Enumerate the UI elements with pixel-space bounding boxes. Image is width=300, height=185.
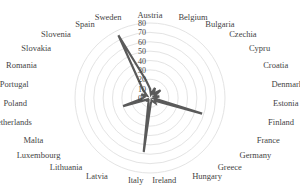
category-label: Bulgaria — [205, 19, 234, 29]
category-label: Finland — [268, 117, 295, 127]
radial-tick-label: 40 — [138, 57, 146, 66]
category-label: France — [257, 135, 280, 145]
category-label: Slovakia — [21, 43, 51, 53]
grid-ring — [113, 61, 188, 136]
radar-chart: 01020304050607080 AustriaBelgiumBulgaria… — [0, 0, 300, 185]
radial-tick-label: 80 — [138, 19, 146, 28]
category-label: Estonia — [273, 98, 299, 108]
category-label: Belgium — [178, 12, 208, 22]
category-label: Hungary — [192, 171, 222, 181]
category-label: Slovenia — [41, 29, 71, 39]
radial-tick-label: 10 — [138, 85, 146, 94]
grid-ring — [84, 32, 215, 163]
category-label: Spain — [75, 19, 95, 29]
category-label: Netherlands — [0, 117, 32, 127]
category-label: Austria — [137, 10, 162, 20]
category-labels: AustriaBelgiumBulgariaCzechiaCypruCroati… — [0, 10, 300, 185]
radial-tick-label: 60 — [138, 38, 146, 47]
category-label: Luxembourg — [17, 150, 62, 160]
category-label: Romania — [6, 60, 37, 70]
grid-ring — [103, 51, 197, 145]
radial-tick-label: 0 — [138, 94, 142, 103]
radial-tick-label: 50 — [138, 47, 146, 56]
grid-ring — [94, 42, 207, 155]
category-label: Croatia — [263, 60, 288, 70]
category-label: Germany — [240, 150, 272, 160]
category-label: Czechia — [229, 29, 257, 39]
category-label: Sweden — [95, 12, 123, 22]
grid-rings — [75, 23, 225, 173]
category-label: Italy — [128, 175, 144, 185]
category-label: Lithuania — [50, 162, 83, 172]
category-label: Malta — [23, 135, 43, 145]
grid-ring — [122, 70, 178, 126]
radial-tick-label: 20 — [138, 75, 146, 84]
category-label: Denmark — [271, 79, 300, 89]
category-label: Portugal — [0, 79, 29, 89]
radial-tick-label: 30 — [138, 66, 146, 75]
category-label: Cypru — [249, 43, 271, 53]
category-label: Poland — [3, 98, 27, 108]
radial-tick-labels: 01020304050607080 — [138, 19, 146, 103]
radial-tick-label: 70 — [138, 28, 146, 37]
category-label: Ireland — [152, 175, 177, 185]
category-label: Latvia — [86, 171, 108, 181]
grid-ring — [75, 23, 225, 173]
